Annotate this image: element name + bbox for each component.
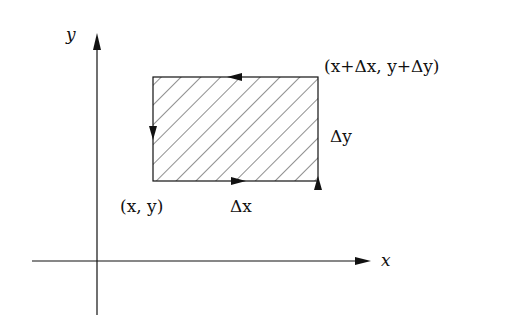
y-axis-arrowhead-icon bbox=[93, 33, 101, 50]
right-edge-label: Δy bbox=[330, 126, 352, 146]
x-axis-label: x bbox=[381, 250, 391, 270]
bottom-edge-label: Δx bbox=[230, 196, 252, 216]
upper-right-corner-label: (x+Δx, y+Δy) bbox=[324, 56, 440, 76]
hatched-rectangle bbox=[153, 77, 318, 181]
y-axis bbox=[93, 33, 101, 315]
y-axis-label: y bbox=[65, 24, 76, 44]
x-axis-arrowhead-icon bbox=[355, 257, 371, 265]
circulation-diagram: y x (x+Δx, y+Δy) Δy (x, y) Δx bbox=[0, 0, 514, 330]
lower-left-corner-label: (x, y) bbox=[120, 196, 163, 216]
x-axis bbox=[32, 257, 371, 265]
